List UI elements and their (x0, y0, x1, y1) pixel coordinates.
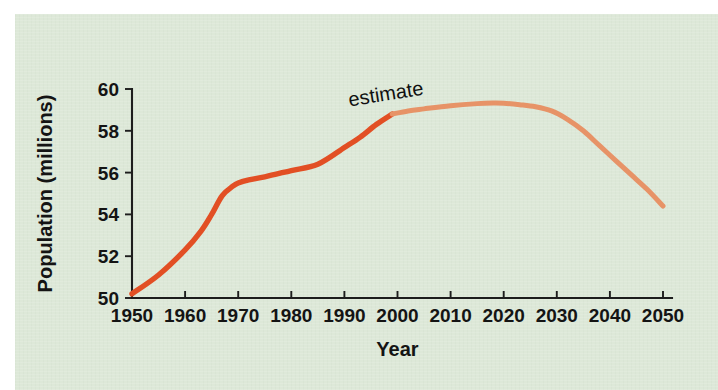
x-tick-label: 1970 (217, 305, 259, 326)
y-tick-label: 52 (98, 246, 119, 267)
y-tick-label: 54 (98, 204, 120, 225)
y-tick-label: 58 (98, 121, 119, 142)
series-line-actual (132, 114, 392, 294)
series-line-estimate (392, 103, 663, 206)
x-tick-label: 2040 (589, 305, 631, 326)
x-tick-label: 2020 (483, 305, 525, 326)
axes-group (132, 89, 672, 298)
data-series-group (132, 103, 663, 294)
tick-marks-group (125, 89, 663, 298)
x-tick-label: 2000 (376, 305, 418, 326)
chart-figure: 505254565860 195019601970198019902000201… (0, 0, 718, 390)
y-tick-label: 56 (98, 163, 119, 184)
estimate-label: estimate (347, 77, 425, 111)
x-tick-label: 2010 (429, 305, 471, 326)
x-tick-label: 2050 (642, 305, 684, 326)
x-tick-label: 1960 (164, 305, 206, 326)
x-tick-label: 1990 (323, 305, 365, 326)
y-tick-label: 60 (98, 79, 119, 100)
x-tick-label: 1950 (111, 305, 153, 326)
y-axis-title: Population (millions) (34, 95, 56, 293)
y-tick-labels: 505254565860 (98, 79, 120, 309)
x-axis-title: Year (376, 338, 418, 360)
annotations-group: estimate (347, 77, 425, 111)
population-line-chart: 505254565860 195019601970198019902000201… (0, 0, 718, 390)
x-tick-label: 2030 (536, 305, 578, 326)
x-tick-label: 1980 (270, 305, 312, 326)
x-tick-labels: 1950196019701980199020002010202020302040… (111, 305, 684, 326)
axis-lines (132, 89, 672, 298)
